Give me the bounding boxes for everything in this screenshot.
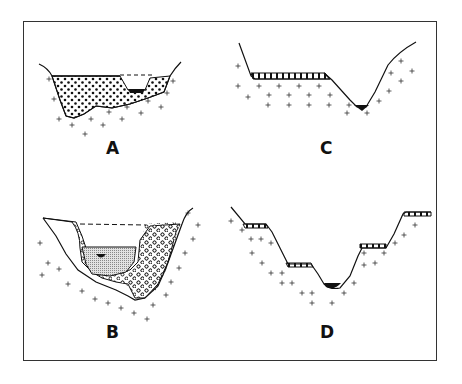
panel-label-b: B [106,322,119,342]
panel-label-c: C [320,138,332,158]
valley-diagram: A B [0,0,462,384]
stream-d [324,283,341,288]
panel-b: B [38,208,201,342]
panel-a: A [39,62,181,158]
valley-profile-d [231,207,431,289]
panel-label-a: A [106,138,120,158]
terrace-deposit-c [251,73,330,79]
stream-a [128,89,145,93]
panel-label-d: D [320,322,334,342]
panel-d: D [229,207,432,342]
dashed-level-b [80,224,146,225]
panel-c: C [236,42,417,158]
bedrock-crosses-d [229,219,418,306]
stream-c [354,105,369,111]
